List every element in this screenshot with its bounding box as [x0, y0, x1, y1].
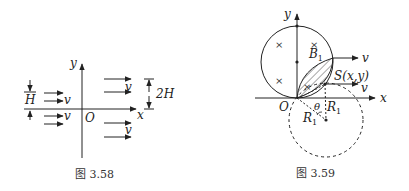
x-axis-label: x — [380, 91, 387, 105]
figure-caption: 图 3.59 — [296, 167, 335, 180]
figure-3-58: y x O H 2H v v v v 图 3.58 — [24, 56, 175, 181]
origin-label: O — [85, 111, 95, 125]
velocity-label: v — [64, 109, 71, 123]
velocity-label: v — [362, 51, 369, 65]
field-cross: × — [275, 75, 283, 86]
field-cross: × — [275, 39, 283, 50]
field-cross: × — [303, 81, 311, 92]
angle-arc — [317, 112, 322, 115]
origin-label: O — [279, 100, 289, 114]
field-label: B1 — [308, 47, 323, 63]
y-axis-label: y — [69, 56, 77, 70]
x-axis-label: x — [137, 108, 144, 122]
figure-3-59: × × × × y x O B1 S(x,y) v v θ R1 R1 图 3.… — [255, 7, 387, 180]
radius-line — [325, 84, 326, 120]
theta-label: θ — [314, 101, 320, 112]
height-H-label: H — [24, 93, 36, 107]
y-axis-label: y — [283, 7, 291, 21]
figure-caption: 图 3.58 — [75, 168, 114, 181]
diagram-canvas: y x O H 2H v v v v 图 3.58 × × × × — [0, 0, 409, 191]
radius-label: R1 — [302, 111, 317, 127]
height-2H-label: 2H — [155, 87, 175, 101]
circle-center — [295, 60, 298, 63]
velocity-label: v — [64, 93, 71, 107]
velocity-label: v — [361, 81, 368, 95]
velocity-label: v — [125, 123, 132, 137]
velocity-label: v — [125, 80, 132, 94]
point — [295, 24, 298, 27]
radius-label: R1 — [326, 100, 341, 116]
hatched-region — [297, 58, 333, 98]
